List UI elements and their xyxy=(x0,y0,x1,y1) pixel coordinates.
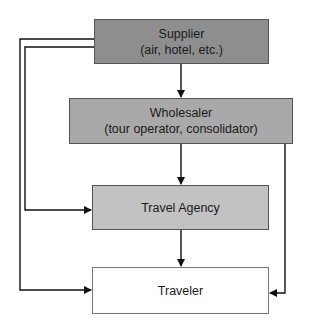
traveler-label: Traveler xyxy=(158,283,203,299)
wholesaler-label: Wholesaler xyxy=(150,105,213,121)
travel-agency-label: Travel Agency xyxy=(141,200,220,216)
supplier-sublabel: (air, hotel, etc.) xyxy=(140,42,223,58)
supplier-label: Supplier xyxy=(159,26,205,42)
arrow-supplier-to-traveler xyxy=(20,39,94,290)
supplier-node: Supplier (air, hotel, etc.) xyxy=(94,19,269,64)
traveler-node: Traveler xyxy=(92,267,269,314)
wholesaler-sublabel: (tour operator, consolidator) xyxy=(104,121,258,137)
arrow-wholesaler-to-traveler xyxy=(270,144,285,293)
wholesaler-node: Wholesaler (tour operator, consolidator) xyxy=(69,98,293,144)
travel-agency-node: Travel Agency xyxy=(92,185,269,230)
